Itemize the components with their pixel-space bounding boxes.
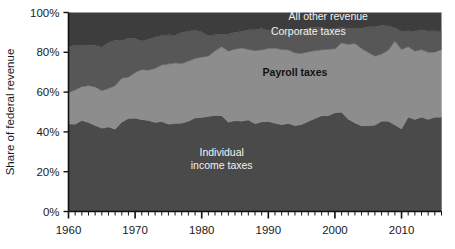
x-axis-tick-label: 1960	[56, 224, 82, 236]
x-axis-tick-label: 1980	[189, 224, 215, 236]
band-label: Corporate taxes	[271, 25, 346, 37]
y-axis-tick-label: 80%	[36, 46, 59, 58]
band-label: Payroll taxes	[263, 66, 328, 78]
y-axis-title: Share of federal revenue	[4, 49, 16, 176]
y-axis-tick-label: 20%	[36, 166, 59, 178]
area-band-individual-income-taxes	[69, 112, 442, 211]
band-label: All other revenue	[289, 10, 369, 22]
x-axis-tick-label: 1970	[122, 224, 148, 236]
x-axis-tick-label: 2000	[322, 224, 348, 236]
y-axis-tick-label: 0%	[43, 206, 60, 218]
band-label: income taxes	[191, 159, 253, 171]
y-axis-tick-label: 100%	[30, 7, 59, 19]
area-bands-group	[69, 13, 442, 212]
y-axis-tick-label: 60%	[36, 86, 59, 98]
band-label: Individual	[200, 146, 244, 158]
chart-container: 0%20%40%60%80%100%1960197019801990200020…	[0, 0, 455, 249]
x-axis-tick-label: 1990	[256, 224, 282, 236]
stacked-area-chart: 0%20%40%60%80%100%1960197019801990200020…	[0, 0, 455, 249]
x-axis-tick-label: 2010	[389, 224, 415, 236]
y-axis-tick-label: 40%	[36, 126, 59, 138]
